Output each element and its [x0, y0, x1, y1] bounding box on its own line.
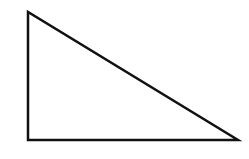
right-triangle — [28, 12, 238, 140]
diagram-canvas — [0, 0, 249, 159]
